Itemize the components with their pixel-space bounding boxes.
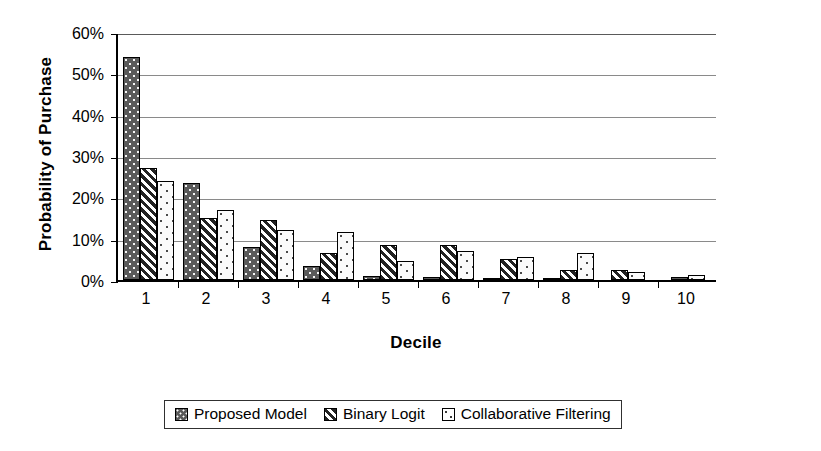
bar — [337, 232, 354, 280]
x-axis-tick — [418, 280, 419, 288]
x-axis-tick-label: 3 — [236, 290, 296, 308]
bar — [628, 272, 645, 280]
bar — [123, 57, 140, 280]
bar-group — [538, 34, 598, 280]
bar-group — [118, 34, 178, 280]
legend-item[interactable]: Binary Logit — [324, 405, 425, 423]
bar — [157, 181, 174, 280]
x-axis-tick — [598, 280, 599, 288]
x-axis-tick-label: 4 — [296, 290, 356, 308]
bar — [140, 168, 157, 280]
bar — [303, 266, 320, 280]
y-axis-tick — [111, 199, 118, 200]
legend-item[interactable]: Proposed Model — [175, 405, 307, 423]
x-axis-tick — [658, 280, 659, 288]
legend-swatch-icon — [175, 408, 188, 421]
x-axis-tick — [178, 280, 179, 288]
bar-chart: Probability of Purchase 0%10%20%30%40%50… — [0, 0, 821, 451]
bar — [363, 276, 380, 280]
bar — [671, 277, 688, 280]
legend-swatch-icon — [324, 408, 337, 421]
y-axis-tick-label: 60% — [42, 26, 104, 42]
x-axis-tick-label: 8 — [536, 290, 596, 308]
bar — [517, 257, 534, 280]
y-axis-tick — [111, 158, 118, 159]
y-axis-tick — [111, 241, 118, 242]
bar — [457, 251, 474, 280]
y-axis-tick-label: 0% — [42, 274, 104, 290]
bar — [577, 253, 594, 280]
y-axis-tick — [111, 282, 118, 283]
legend-item-label: Proposed Model — [194, 405, 307, 423]
bar — [243, 247, 260, 280]
x-axis-title: Decile — [116, 333, 716, 353]
y-axis-tick — [111, 117, 118, 118]
legend-item-label: Binary Logit — [343, 405, 425, 423]
y-axis-tick-label: 10% — [42, 233, 104, 249]
plot-area — [116, 34, 716, 282]
y-axis-tick-label: 30% — [42, 150, 104, 166]
chart-legend: Proposed ModelBinary LogitCollaborative … — [164, 400, 622, 429]
bar-group — [478, 34, 538, 280]
bar-group — [238, 34, 298, 280]
bar — [500, 259, 517, 280]
legend-item-label: Collaborative Filtering — [461, 405, 611, 423]
bar — [440, 245, 457, 280]
y-axis-tick-label: 50% — [42, 67, 104, 83]
y-axis-tick-label: 20% — [42, 191, 104, 207]
bar — [260, 220, 277, 280]
legend-swatch-icon — [442, 408, 455, 421]
x-axis-tick — [358, 280, 359, 288]
bar-group — [298, 34, 358, 280]
bar-group — [598, 34, 658, 280]
bar — [183, 183, 200, 280]
x-axis-tick — [298, 280, 299, 288]
bar — [543, 278, 560, 280]
y-axis-tick — [111, 34, 118, 35]
bar — [397, 261, 414, 280]
y-axis-tick-labels: 0%10%20%30%40%50%60% — [42, 0, 104, 300]
x-axis-tick-label: 10 — [656, 290, 716, 308]
bar — [688, 275, 705, 280]
y-axis-tick-label: 40% — [42, 109, 104, 125]
bar — [380, 245, 397, 280]
x-axis-tick-label: 6 — [416, 290, 476, 308]
x-axis-tick — [538, 280, 539, 288]
x-axis-tick-label: 5 — [356, 290, 416, 308]
bar — [200, 218, 217, 280]
x-axis-tick-label: 9 — [596, 290, 656, 308]
bar-group — [418, 34, 478, 280]
x-axis-tick-label: 7 — [476, 290, 536, 308]
x-axis-tick-label: 2 — [176, 290, 236, 308]
bar-group — [178, 34, 238, 280]
bar — [277, 230, 294, 280]
x-axis-tick — [238, 280, 239, 288]
bar-group — [658, 34, 718, 280]
bar — [611, 270, 628, 280]
bar — [320, 253, 337, 280]
bar — [423, 277, 440, 280]
bar — [217, 210, 234, 280]
legend-item[interactable]: Collaborative Filtering — [442, 405, 611, 423]
y-axis-tick — [111, 75, 118, 76]
x-axis-tick — [478, 280, 479, 288]
bar — [483, 278, 500, 280]
x-axis-tick-labels: 12345678910 — [116, 290, 716, 320]
x-axis-tick-label: 1 — [116, 290, 176, 308]
bar — [560, 270, 577, 280]
bar-group — [358, 34, 418, 280]
